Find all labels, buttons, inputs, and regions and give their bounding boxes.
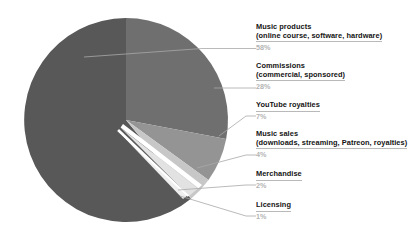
label-music-products-subtitle: (online course, software, hardware)	[256, 32, 382, 41]
label-youtube-royalties-percent: 7%	[256, 113, 320, 121]
label-youtube-royalties[interactable]: YouTube royalties 7%	[256, 101, 320, 122]
label-music-sales-rule	[256, 148, 407, 149]
label-youtube-royalties-title: YouTube royalties	[256, 101, 320, 110]
label-commissions-subtitle: (commercial, sponsored)	[256, 71, 345, 80]
label-music-sales-subtitle: (downloads, streaming, Patreon, royaltie…	[256, 139, 407, 148]
label-commissions[interactable]: Commissions (commercial, sponsored) 28%	[256, 62, 345, 91]
label-music-products-rule	[256, 41, 382, 42]
label-merchandise-percent: 2%	[256, 182, 302, 190]
leader-line-licensing	[180, 196, 256, 216]
pie-slice-commissions[interactable]	[126, 18, 228, 139]
label-licensing-title: Licensing	[256, 201, 291, 210]
label-merchandise[interactable]: Merchandise 2%	[256, 170, 302, 191]
label-music-sales[interactable]: Music sales (downloads, streaming, Patre…	[256, 130, 407, 159]
label-music-sales-percent: 4%	[256, 151, 407, 159]
label-commissions-percent: 28%	[256, 83, 345, 91]
label-merchandise-title: Merchandise	[256, 170, 302, 179]
label-music-products[interactable]: Music products (online course, software,…	[256, 23, 382, 52]
label-licensing[interactable]: Licensing 1%	[256, 201, 291, 222]
label-licensing-percent: 1%	[256, 213, 291, 221]
label-music-products-percent: 58%	[256, 44, 382, 52]
pie-chart-figure: Music products (online course, software,…	[0, 0, 418, 238]
